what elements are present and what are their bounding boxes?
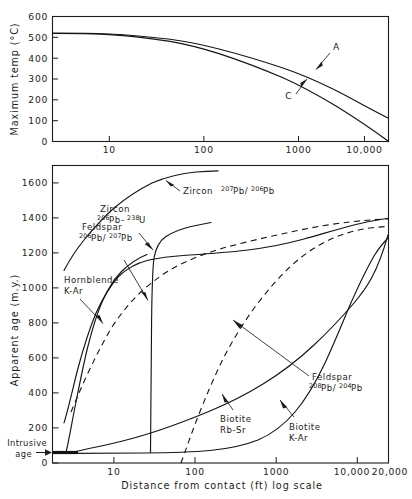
biotite-k-ar-method: K-Ar bbox=[289, 433, 308, 443]
top-y-tick-0: 0 bbox=[41, 136, 48, 147]
bottom-y-tick-1200: 1200 bbox=[22, 247, 48, 258]
top-panel-y-axis-title: Maximum temp (°C) bbox=[9, 23, 20, 136]
intrusive-age-arrowhead bbox=[45, 449, 52, 455]
feldspar-208-204-leader bbox=[233, 320, 309, 376]
top-y-tick-200: 200 bbox=[28, 94, 48, 105]
top-x-tick-10000: 10,000 bbox=[346, 144, 382, 155]
feldspar-208-204-name: Feldspar bbox=[312, 372, 352, 382]
bottom-y-tick-200: 200 bbox=[28, 422, 48, 433]
zircon-207-206-sup-207: 207 bbox=[221, 185, 234, 193]
top-panel: 600 500 400 300 200 100 0 Maximum temp (… bbox=[9, 11, 389, 155]
curve-biotite-rb-sr-dashed bbox=[181, 226, 388, 463]
feldspar-208-204-pb-slash: Pb/ bbox=[321, 383, 336, 393]
zircon-207-206-name: Zircon bbox=[183, 186, 213, 196]
hornblende-k-ar-arrowhead bbox=[95, 315, 103, 323]
top-x-tick-1000: 1000 bbox=[285, 144, 311, 155]
feldspar-208-204-sup-208: 208 bbox=[309, 382, 322, 390]
bottom-y-tick-0: 0 bbox=[41, 457, 48, 468]
bottom-y-tick-1400: 1400 bbox=[22, 212, 48, 223]
top-x-tick-100: 100 bbox=[194, 144, 214, 155]
top-panel-y-ticks bbox=[53, 17, 59, 142]
bottom-y-tick-600: 600 bbox=[28, 352, 48, 363]
bottom-x-tick-1000: 1000 bbox=[263, 466, 289, 477]
feldspar-206-207-sup-207: 207 bbox=[109, 232, 122, 240]
bottom-x-tick-100: 100 bbox=[185, 466, 205, 477]
biotite-rb-sr-method: Rb-Sr bbox=[220, 425, 246, 435]
feldspar-206-207-pb-slash: Pb/ bbox=[91, 233, 106, 243]
zircon-207-206-pb-slash: Pb/ bbox=[233, 186, 248, 196]
feldspar-206-207-name: Feldspar bbox=[82, 222, 122, 232]
top-panel-frame bbox=[53, 17, 389, 142]
zircon-206-238-sup-206: 206 bbox=[97, 214, 110, 222]
biotite-k-ar-name: Biotite bbox=[289, 422, 320, 432]
feldspar-206-207-sup-206: 206 bbox=[79, 232, 92, 240]
top-y-tick-400: 400 bbox=[28, 53, 48, 64]
curve-a-arrowhead bbox=[316, 62, 323, 70]
annotation-biotite-rb-sr: Biotite Rb-Sr bbox=[220, 414, 251, 435]
bottom-x-tick-20000: 20,000 bbox=[372, 466, 408, 477]
bottom-panel: 1600 1400 1200 1000 800 600 400 200 0 Ap… bbox=[7, 166, 408, 492]
zircon-206-238-sup-238: 238 bbox=[127, 214, 140, 222]
feldspar-206-207-pb: Pb bbox=[121, 233, 133, 243]
bottom-y-tick-1600: 1600 bbox=[22, 177, 48, 188]
bottom-panel-y-axis-title: Apparent age (m.y.) bbox=[9, 274, 20, 386]
intrusive-age-marker: Intrusive age bbox=[7, 438, 52, 459]
top-x-tick-10: 10 bbox=[103, 144, 116, 155]
zircon-207-206-sup-206: 206 bbox=[251, 185, 264, 193]
curve-zircon-206pb-238u bbox=[151, 223, 212, 453]
bottom-y-tick-400: 400 bbox=[28, 387, 48, 398]
bottom-panel-x-ticks bbox=[114, 457, 389, 463]
annotation-zircon-207pb-206pb: Zircon 207 Pb/ 206 Pb bbox=[183, 185, 275, 197]
biotite-rb-sr-name: Biotite bbox=[220, 414, 251, 424]
top-panel-x-ticks bbox=[109, 136, 364, 142]
figure-svg: 600 500 400 300 200 100 0 Maximum temp (… bbox=[0, 0, 412, 499]
top-y-tick-300: 300 bbox=[28, 73, 48, 84]
feldspar-208-204-sup-204: 204 bbox=[339, 382, 352, 390]
annotation-feldspar-206pb-207pb: Feldspar 206 Pb/ 207 Pb bbox=[79, 222, 133, 243]
annotation-feldspar-208pb-204pb: Feldspar 208 Pb/ 204 Pb bbox=[309, 372, 363, 393]
intrusive-age-line1: Intrusive bbox=[7, 438, 47, 448]
geochronology-figure: 600 500 400 300 200 100 0 Maximum temp (… bbox=[0, 0, 412, 499]
top-y-tick-500: 500 bbox=[28, 32, 48, 43]
annotation-biotite-k-ar: Biotite K-Ar bbox=[289, 422, 320, 443]
intrusive-age-line2: age bbox=[15, 449, 32, 459]
zircon-206-238-arrowhead bbox=[145, 242, 153, 250]
bottom-x-tick-10: 10 bbox=[107, 466, 120, 477]
curve-label-c: C bbox=[285, 91, 292, 101]
biotite-k-ar-arrowhead bbox=[280, 400, 287, 408]
bottom-panel-x-axis-title: Distance from contact (ft) log scale bbox=[121, 480, 323, 491]
bottom-panel-y-ticks bbox=[53, 183, 59, 463]
bottom-y-tick-800: 800 bbox=[28, 317, 48, 328]
hornblende-k-ar-method: K-Ar bbox=[64, 286, 83, 296]
zircon-206-238-name: Zircon bbox=[100, 204, 130, 214]
top-y-tick-100: 100 bbox=[28, 115, 48, 126]
bottom-x-tick-10000: 10,000 bbox=[334, 466, 370, 477]
bottom-y-tick-1000: 1000 bbox=[22, 282, 48, 293]
curve-feldspar-206pb-207pb bbox=[64, 218, 388, 423]
hornblende-k-ar-name: Hornblende bbox=[64, 275, 119, 285]
biotite-rb-sr-arrowhead bbox=[222, 394, 229, 403]
zircon-206-238-u: U bbox=[139, 215, 146, 225]
feldspar-208-204-pb: Pb bbox=[351, 383, 363, 393]
curve-label-a: A bbox=[333, 42, 340, 52]
zircon-207-206-pb: Pb bbox=[263, 186, 275, 196]
curve-c-arrowhead bbox=[300, 79, 307, 87]
top-y-tick-600: 600 bbox=[28, 11, 48, 22]
